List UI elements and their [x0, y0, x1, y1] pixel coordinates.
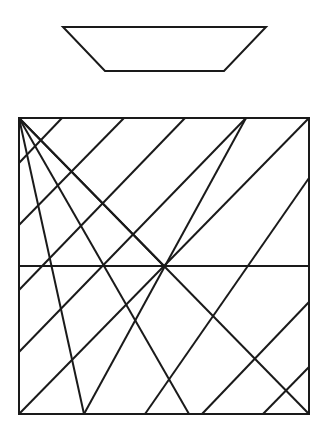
geometry-diagram — [0, 0, 327, 443]
trapezoid — [63, 27, 266, 71]
parallel-line — [145, 178, 309, 414]
